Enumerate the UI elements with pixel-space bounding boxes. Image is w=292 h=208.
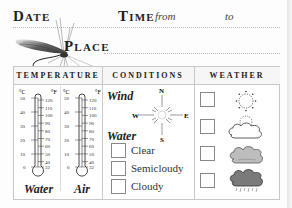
place-label: Place	[64, 38, 110, 55]
semicloudy-checkbox[interactable]	[111, 161, 126, 176]
partly-cloudy-icon	[226, 113, 266, 141]
svg-text:50: 50	[20, 96, 26, 101]
svg-text:50: 50	[45, 152, 51, 157]
svg-text:50: 50	[64, 96, 70, 101]
cloudy-checkbox[interactable]	[111, 179, 126, 194]
clear-label: Clear	[131, 144, 155, 156]
column-divider	[194, 67, 195, 199]
air-thermometer[interactable]: °C °F 504030 20100 120110100 908070 6050…	[61, 87, 103, 182]
svg-text:100: 100	[89, 113, 97, 118]
fishing-log-page: Date Time from to	[0, 0, 287, 208]
semicloudy-label: Semicloudy	[131, 162, 184, 174]
svg-text:°C: °C	[19, 89, 25, 95]
sun-icon	[226, 87, 266, 115]
svg-text:80: 80	[45, 129, 51, 134]
svg-text:100: 100	[45, 113, 53, 118]
rain-checkbox[interactable]	[200, 173, 215, 188]
svg-text:120: 120	[89, 98, 97, 103]
svg-text:70: 70	[89, 137, 95, 142]
rain-cloud-icon	[226, 166, 266, 194]
svg-text:70: 70	[45, 137, 51, 142]
partly-cloudy-checkbox[interactable]	[200, 119, 215, 134]
temperature-header: TEMPERATURE	[14, 67, 102, 85]
svg-text:60: 60	[45, 144, 51, 149]
overcast-checkbox[interactable]	[200, 146, 215, 161]
svg-text:30: 30	[20, 124, 26, 129]
svg-text:120: 120	[45, 98, 53, 103]
svg-text:32: 32	[89, 165, 95, 170]
svg-text:°F: °F	[51, 89, 57, 95]
svg-text:110: 110	[89, 106, 97, 111]
conditions-table: TEMPERATURE CONDITIONS WEATHER °C °F 504…	[13, 66, 280, 200]
sunny-checkbox[interactable]	[200, 92, 215, 107]
wind-compass[interactable]: N S E W	[132, 85, 192, 145]
svg-text:20: 20	[20, 138, 26, 143]
overcast-cloud-icon	[226, 140, 266, 168]
time-to-label: to	[225, 10, 234, 22]
svg-text:°C: °C	[63, 89, 69, 95]
svg-text:N: N	[159, 87, 164, 95]
conditions-header: CONDITIONS	[102, 67, 194, 85]
svg-text:40: 40	[64, 110, 70, 115]
svg-text:10: 10	[64, 152, 70, 157]
water-clarity-label: Water	[107, 129, 136, 144]
svg-text:60: 60	[89, 144, 95, 149]
svg-text:°F: °F	[95, 89, 101, 95]
svg-text:50: 50	[89, 152, 95, 157]
svg-text:110: 110	[45, 106, 53, 111]
svg-text:0: 0	[23, 165, 26, 170]
svg-text:90: 90	[45, 121, 51, 126]
svg-text:32: 32	[45, 165, 51, 170]
air-thermometer-label: Air	[74, 182, 90, 197]
svg-text:W: W	[132, 112, 139, 120]
svg-text:40: 40	[20, 110, 26, 115]
page-edge-shadow	[287, 0, 292, 208]
wind-label: Wind	[107, 89, 133, 104]
svg-text:40: 40	[89, 160, 95, 165]
svg-text:20: 20	[64, 138, 70, 143]
svg-text:E: E	[184, 112, 189, 120]
svg-text:10: 10	[20, 152, 26, 157]
time-label: Time	[118, 8, 155, 25]
svg-text:40: 40	[45, 160, 51, 165]
svg-text:30: 30	[64, 124, 70, 129]
clear-checkbox[interactable]	[111, 143, 126, 158]
svg-text:80: 80	[89, 129, 95, 134]
svg-text:S: S	[160, 136, 164, 144]
water-thermometer[interactable]: °C °F 504030 20100 120110100 908070 6050…	[17, 87, 59, 182]
place-entry-line[interactable]	[104, 53, 280, 54]
cloudy-label: Cloudy	[131, 180, 163, 192]
weather-header: WEATHER	[194, 67, 280, 85]
svg-text:0: 0	[67, 165, 70, 170]
water-thermometer-label: Water	[24, 182, 53, 197]
time-from-label: from	[155, 10, 175, 22]
svg-text:90: 90	[89, 121, 95, 126]
